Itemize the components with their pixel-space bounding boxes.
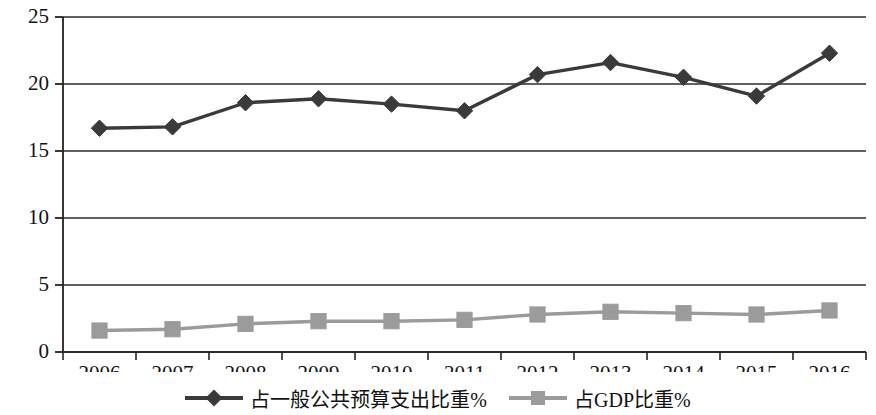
svg-text:2015: 2015 (736, 361, 778, 372)
svg-text:2007: 2007 (152, 361, 194, 372)
diamond-line-marker-icon (185, 390, 243, 406)
plot-area: 0510152025 20062007200820092010201120122… (0, 0, 876, 372)
square-line-marker-icon (509, 390, 567, 406)
chart-legend: 占一般公共预算支出比重% 占GDP比重% (0, 382, 876, 414)
svg-text:0: 0 (39, 339, 50, 363)
svg-text:20: 20 (28, 71, 49, 95)
svg-text:2014: 2014 (663, 361, 706, 372)
y-axis-ticks (55, 17, 63, 352)
svg-text:2010: 2010 (371, 361, 413, 372)
legend-label-gdp-share: 占GDP比重% (574, 384, 691, 413)
series-gdp-share (92, 303, 837, 338)
svg-text:2011: 2011 (444, 361, 485, 372)
svg-text:10: 10 (28, 205, 49, 229)
series-budget-expenditure-share (91, 45, 837, 136)
legend-item-budget-share: 占一般公共预算支出比重% (185, 384, 487, 413)
x-axis-ticks (63, 352, 866, 360)
svg-text:25: 25 (28, 4, 49, 28)
svg-text:5: 5 (39, 272, 50, 296)
svg-text:2012: 2012 (517, 361, 559, 372)
y-axis-labels: 0510152025 (28, 4, 49, 363)
gridlines (63, 17, 866, 352)
line-chart: 0510152025 20062007200820092010201120122… (0, 0, 876, 415)
svg-text:2006: 2006 (79, 361, 121, 372)
svg-text:2008: 2008 (225, 361, 267, 372)
svg-text:15: 15 (28, 138, 49, 162)
svg-text:2016: 2016 (809, 361, 851, 372)
chart-canvas: 0510152025 20062007200820092010201120122… (0, 0, 876, 372)
svg-text:2009: 2009 (298, 361, 340, 372)
x-axis-labels: 2006200720082009201020112012201320142015… (79, 361, 851, 372)
legend-label-budget-share: 占一般公共预算支出比重% (250, 384, 487, 413)
legend-item-gdp-share: 占GDP比重% (509, 384, 691, 413)
svg-text:2013: 2013 (590, 361, 632, 372)
